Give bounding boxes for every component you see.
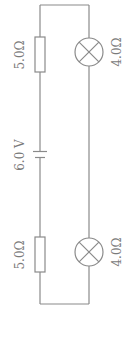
resistor-top-left-label: 5.0Ω — [13, 40, 27, 69]
resistor-icon — [35, 237, 45, 272]
battery-label: 6.0 V — [13, 139, 27, 171]
lamp-bottom-right — [75, 238, 103, 266]
lamp-bottom-right-label: 4.0Ω — [110, 237, 124, 266]
lamp-top-right — [75, 38, 103, 66]
lamp-top-right-label: 4.0Ω — [110, 37, 124, 66]
circuit-diagram: 5.0Ω 5.0Ω 6.0 V 4.0Ω 4.0Ω — [0, 0, 129, 346]
resistor-top-left — [35, 37, 45, 72]
resistor-bottom-left — [35, 237, 45, 272]
resistor-icon — [35, 37, 45, 72]
resistor-bottom-left-label: 5.0Ω — [13, 240, 27, 269]
battery — [33, 152, 47, 158]
